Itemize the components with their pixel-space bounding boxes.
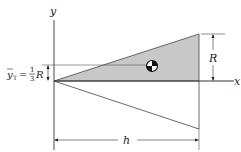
ybar-arrow-down-icon — [47, 77, 50, 81]
svg-text:1: 1 — [30, 66, 34, 74]
R-dimension-label: R — [208, 52, 217, 65]
x-axis-label: x — [234, 75, 241, 88]
shaded-upper-triangle — [54, 34, 199, 81]
lower-triangle-outline — [54, 81, 199, 129]
h-arrow-right-icon — [195, 139, 199, 142]
triangle-centroid-diagram: y x y T = 1 3 R R h — [0, 0, 241, 152]
svg-text:=: = — [19, 69, 27, 80]
R-arrow-up-icon — [212, 34, 215, 38]
svg-text:3: 3 — [30, 75, 34, 83]
svg-text:T: T — [13, 74, 17, 81]
h-arrow-left-icon — [54, 139, 58, 142]
y-axis-label: y — [49, 5, 57, 18]
svg-text:y: y — [6, 69, 13, 80]
svg-text:R: R — [35, 69, 44, 80]
ybar-formula-label: y T = 1 3 R — [6, 66, 44, 83]
h-dimension-label: h — [123, 134, 130, 147]
ybar-arrow-up-icon — [47, 65, 50, 69]
centroid-icon — [147, 61, 158, 72]
R-arrow-down-icon — [212, 77, 215, 81]
